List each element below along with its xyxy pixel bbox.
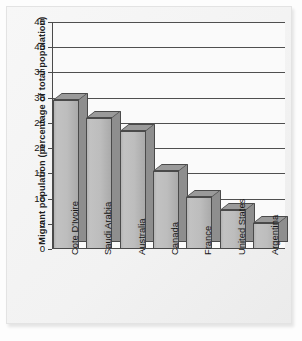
x-axis-label: Saudi Arabia xyxy=(103,202,112,255)
y-axis-tick-label: 25 xyxy=(34,118,45,128)
y-axis-tick xyxy=(48,148,52,149)
y-axis-tick-label: 15 xyxy=(34,169,45,179)
y-axis-tick xyxy=(48,98,52,99)
y-axis-tick xyxy=(48,47,52,48)
y-axis-tick xyxy=(48,22,52,23)
y-axis-tick-label: 0 xyxy=(40,244,45,254)
y-axis-tick-label: 45 xyxy=(34,17,45,27)
x-axis-label: Cote D'Ivoire xyxy=(70,201,79,255)
y-axis-tick xyxy=(48,199,52,200)
y-axis-tick xyxy=(48,123,52,124)
y-axis-tick-label: 35 xyxy=(34,68,45,78)
chart-page: Migrant population (percentage of total … xyxy=(0,0,302,341)
x-axis-label: France xyxy=(203,226,212,255)
x-axis-label: Canada xyxy=(170,222,179,255)
plot-area: 051015202530354045 Cote D'IvoireSaudi Ar… xyxy=(52,22,285,249)
gridline xyxy=(53,72,285,73)
y-axis-tick-label: 20 xyxy=(34,143,45,153)
x-axis-label: United States xyxy=(237,199,246,255)
y-axis-tick-label: 10 xyxy=(34,194,45,204)
gridline xyxy=(53,22,285,23)
y-axis-tick-label: 5 xyxy=(40,219,45,229)
y-axis-tick xyxy=(48,173,52,174)
gridline xyxy=(53,47,285,48)
x-axis-label: Argentina xyxy=(270,215,279,255)
y-axis-tick xyxy=(48,224,52,225)
bar-chart: Migrant population (percentage of total … xyxy=(8,8,290,322)
x-axis-label: Australia xyxy=(137,219,146,255)
y-axis-tick-label: 40 xyxy=(34,42,45,52)
y-axis-tick xyxy=(48,249,52,250)
y-axis-tick xyxy=(48,72,52,73)
y-axis-tick-label: 30 xyxy=(34,93,45,103)
